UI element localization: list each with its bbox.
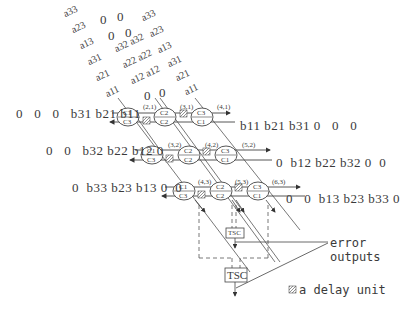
cell-top: C2 (184, 147, 192, 155)
cell-bottom: C1 (221, 156, 229, 164)
b-value: 0 (304, 191, 311, 206)
b-value: b23 (344, 191, 365, 206)
row-1-right-stream: b11 b21 b31 0 0 0 (240, 118, 357, 134)
a-zero: 0 (117, 9, 124, 25)
systolic-array-diagram: (2,1) (3,1) (4,1) (3,2) (4,2) (5,2) (4,3… (0, 0, 404, 310)
a-zero: 0 (108, 28, 115, 44)
cell-bottom: C2 (216, 192, 224, 200)
cell-label: (4,3) (198, 178, 211, 186)
row-3-outputs (195, 200, 275, 212)
b-value: b23 (111, 180, 132, 195)
b-value: b33 (368, 191, 389, 206)
b-value: b11 (240, 118, 261, 133)
cell-label: (5,3) (235, 178, 248, 186)
b-value: 0 (175, 180, 182, 195)
b-value: 0 (365, 155, 372, 170)
b-value: b12 (132, 143, 153, 158)
cell-top: C2 (160, 109, 168, 117)
b-value: b13 (319, 191, 340, 206)
cell-bottom: C2 (160, 118, 168, 126)
b-value: b11 (120, 106, 141, 121)
b-value: 0 (34, 106, 41, 121)
b-value: 0 (314, 118, 321, 133)
cell-label: (4,1) (217, 103, 230, 111)
cell-bottom: C2 (184, 156, 192, 164)
cell-label: (5,2) (242, 141, 255, 149)
b-value: 0 (64, 143, 71, 158)
a-zero: 0 (159, 85, 166, 101)
a-zero: 0 (100, 12, 107, 28)
b-value: 0 (16, 106, 23, 121)
error-outputs-label-line1: error (330, 236, 366, 250)
row-2-left-stream: 0 0 b32 b22 b12 0 (46, 143, 164, 159)
a-zero: 0 (144, 88, 151, 104)
b-value: 0 (332, 118, 339, 133)
cell-top: C2 (216, 183, 224, 191)
b-value: 0 (379, 155, 386, 170)
b-value: b22 (107, 143, 128, 158)
b-value: b32 (340, 155, 361, 170)
b-value: b31 (71, 106, 92, 121)
error-outputs-label-line2: outputs (330, 250, 381, 264)
cell-top: C3 (221, 147, 229, 155)
b-value: 0 (53, 106, 60, 121)
row-3-left-stream: 0 b33 b23 b13 0 0 (72, 180, 182, 196)
tsc-large-label: TSC (227, 269, 247, 281)
tsc-small-label: TSC (228, 229, 241, 237)
b-value: b21 (264, 118, 285, 133)
b-value: b12 (291, 155, 312, 170)
cell-label: (2,1) (143, 103, 156, 111)
b-value: 0 (286, 191, 293, 206)
b-value: b22 (315, 155, 336, 170)
cell-label: (4,2) (205, 141, 218, 149)
b-value: 0 (393, 191, 400, 206)
row-2-right-stream: 0 b12 b22 b32 0 0 (276, 155, 386, 171)
cell-label: (6,3) (272, 178, 285, 186)
b-value: 0 (157, 143, 164, 158)
cell-label: (3,1) (180, 103, 193, 111)
b-value: 0 (46, 143, 53, 158)
b-value: 0 (350, 118, 357, 133)
b-value: 0 (161, 180, 168, 195)
delay-units (143, 110, 296, 293)
b-value: 0 (72, 180, 79, 195)
b-value: b32 (83, 143, 104, 158)
cell-top: C3 (253, 183, 261, 191)
row-3-right-stream: 0 0 b13 b23 b33 0 (286, 191, 400, 207)
cell-bottom: C1 (253, 192, 261, 200)
delay-unit-legend: a delay unit (299, 283, 386, 297)
row-1-left-stream: 0 0 0 b31 b21 b11 (16, 106, 141, 122)
cell-bottom: C1 (197, 118, 205, 126)
cell-top: C3 (197, 109, 205, 117)
b-value: b13 (136, 180, 157, 195)
b-value: 0 (276, 155, 283, 170)
cell-label: (3,2) (168, 141, 181, 149)
b-value: b33 (87, 180, 108, 195)
b-value: b31 (289, 118, 310, 133)
b-value: b21 (96, 106, 117, 121)
